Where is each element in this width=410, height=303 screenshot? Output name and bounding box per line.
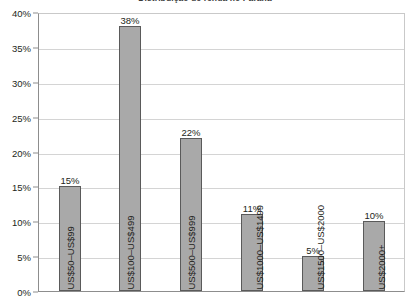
- y-tick-label: 20%: [12, 147, 31, 158]
- gridline: [39, 154, 404, 155]
- bar-value-label: 15%: [60, 175, 79, 186]
- gridline: [39, 258, 404, 259]
- bar-value-label: 22%: [181, 127, 200, 138]
- y-tick-label: 0%: [17, 287, 31, 298]
- chart-title: Distribuição de renda no Paraná: [0, 0, 410, 3]
- y-tick-label: 5%: [17, 252, 31, 263]
- category-label: US$50–US$99: [65, 226, 75, 289]
- category-label: US$2000+: [377, 244, 387, 289]
- y-tick-label: 30%: [12, 77, 31, 88]
- y-tick-label: 25%: [12, 112, 31, 123]
- category-label: US$1000–US$1499: [255, 204, 265, 289]
- y-tick-label: 10%: [12, 217, 31, 228]
- bar-chart: Distribuição de renda no Paraná 0% 5% 10…: [0, 0, 410, 303]
- gridline: [39, 49, 404, 50]
- bar-value-label: 38%: [120, 15, 139, 26]
- gridline: [39, 188, 404, 189]
- gridline: [39, 223, 404, 224]
- gridline: [39, 84, 404, 85]
- y-tick-label: 35%: [12, 42, 31, 53]
- category-label: US$1500–US$2000: [316, 204, 326, 289]
- plot-area: 15% 38% 22% 11% 5% 10% US$50–US$99 US$10…: [38, 13, 405, 292]
- y-tick-label: 15%: [12, 182, 31, 193]
- gridline: [39, 119, 404, 120]
- bar-value-label: 10%: [364, 210, 383, 221]
- y-axis: 0% 5% 10% 15% 20% 25% 30% 35% 40%: [0, 13, 38, 293]
- category-label: US$500–US$999: [186, 215, 196, 289]
- y-tick-label: 40%: [12, 8, 31, 19]
- category-label: US$100–US$499: [125, 215, 135, 289]
